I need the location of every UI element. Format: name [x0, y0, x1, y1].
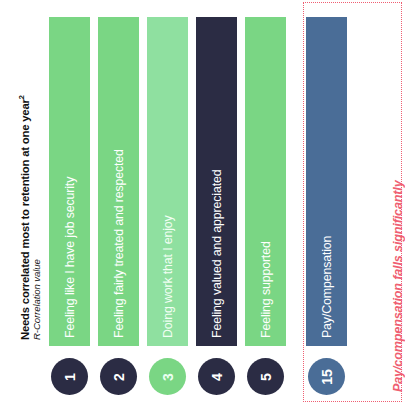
bar[interactable]: Feeling supported [245, 17, 286, 346]
pay-compensation-annotation: Pay/compensation falls significantly [391, 180, 405, 392]
plot-area: Feeling like I have job security1Feeling… [47, 0, 404, 406]
rank-badge-number: 15 [319, 369, 333, 385]
chart-axis-title: Needs correlated most to retention at on… [17, 95, 31, 340]
bar[interactable]: Feeling valued and appreciated [196, 17, 237, 346]
bar-label: Doing work that I enjoy [161, 215, 175, 338]
chart-axis-subtitle: R-Correlation value [31, 259, 42, 340]
bar-label: Feeling supported [259, 241, 273, 338]
chart-axis-title-superscript: 2 [17, 95, 26, 99]
bar-label: Feeling valued and appreciated [210, 170, 224, 338]
bar-label: Feeling fairly treated and respected [112, 149, 126, 338]
y-axis-label-group: Needs correlated most to retention at on… [0, 0, 46, 406]
rank-badge[interactable]: 5 [247, 358, 284, 395]
rank-badge-number: 4 [209, 373, 223, 381]
rank-badge[interactable]: 3 [149, 358, 186, 395]
rank-badge[interactable]: 15 [308, 358, 345, 395]
rank-badge[interactable]: 2 [100, 358, 137, 395]
rank-badge-number: 1 [62, 373, 76, 381]
bar-label: Pay/Compensation [320, 236, 334, 338]
rank-badge-number: 3 [160, 373, 174, 381]
chart-axis-title-text: Needs correlated most to retention at on… [19, 99, 31, 340]
bar[interactable]: Feeling fairly treated and respected [98, 17, 139, 346]
bar[interactable]: Feeling like I have job security [49, 17, 90, 346]
bar[interactable]: Doing work that I enjoy [147, 17, 188, 346]
rank-badge-number: 5 [258, 373, 272, 381]
rank-badge[interactable]: 4 [198, 358, 235, 395]
rank-badge[interactable]: 1 [51, 358, 88, 395]
bar[interactable]: Pay/Compensation [306, 17, 347, 346]
rank-badge-number: 2 [111, 373, 125, 381]
bar-label: Feeling like I have job security [63, 177, 77, 338]
